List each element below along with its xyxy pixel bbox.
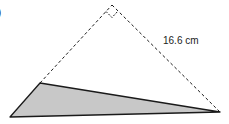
dashed-left-side bbox=[40, 5, 112, 83]
triangle-diagram bbox=[0, 0, 229, 124]
dashed-right-side bbox=[112, 5, 220, 112]
right-angle-marker-icon bbox=[106, 11, 118, 18]
side-length-label: 16.6 cm bbox=[163, 35, 199, 46]
shaded-triangle bbox=[10, 83, 220, 117]
